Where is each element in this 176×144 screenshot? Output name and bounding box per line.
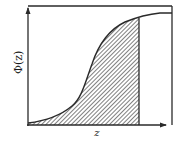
cdf-diagram [0, 0, 176, 144]
y-axis-arrow-icon [26, 7, 31, 14]
x-axis-arrow-icon [160, 123, 167, 128]
x-axis-label: z [90, 126, 104, 140]
y-axis-label: Φ(z) [12, 52, 26, 74]
y-axis [26, 7, 31, 126]
shaded-area [28, 10, 140, 126]
